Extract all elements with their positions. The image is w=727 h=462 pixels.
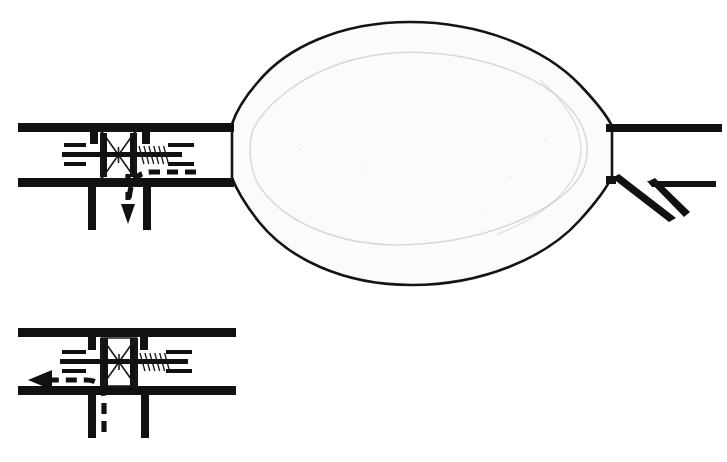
distal-prongs	[612, 174, 716, 222]
lower-panel	[18, 328, 236, 438]
lower-branch-left	[88, 386, 96, 438]
upper-valve-seat-left	[90, 130, 98, 144]
lower-valve-stem	[60, 359, 188, 364]
valve-diagram-canvas	[0, 0, 727, 462]
lower-valve-seat-right	[140, 336, 148, 350]
upper-branch-right	[143, 178, 151, 230]
lower-duct-wall-top	[18, 328, 236, 337]
upper-valve-stem	[62, 152, 182, 157]
balloon-cuff	[232, 22, 612, 285]
upper-valve-seat-right	[142, 130, 150, 144]
upper-panel	[18, 22, 722, 285]
distal-neck	[606, 124, 722, 184]
lower-valve-seat-left	[88, 336, 96, 350]
upper-branch-left	[88, 178, 96, 230]
lower-branch-right	[141, 386, 149, 438]
figure-root: Airway valve with inflatable cuff — flow…	[0, 0, 727, 462]
